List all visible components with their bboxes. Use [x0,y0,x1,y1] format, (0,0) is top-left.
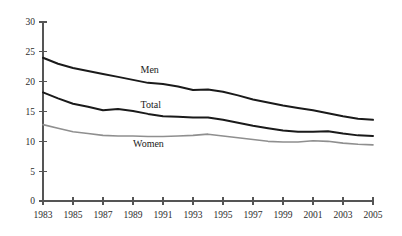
y-tick-label-5: 5 [30,167,35,177]
line-chart: 0510152025301983198519871989199119931995… [0,0,402,236]
x-tick-label-1993: 1993 [184,210,203,220]
x-tick-label-2003: 2003 [334,210,353,220]
y-tick-label-25: 25 [26,47,36,57]
chart-container: 0510152025301983198519871989199119931995… [0,0,402,236]
x-tick-label-1985: 1985 [64,210,83,220]
series-line-men [43,58,373,120]
x-tick-label-1983: 1983 [34,210,53,220]
series-label-total: Total [141,99,162,110]
x-tick-label-2005: 2005 [364,210,383,220]
series-line-total [43,92,373,136]
series-line-women [43,125,373,145]
x-tick-label-1995: 1995 [214,210,233,220]
y-tick-label-30: 30 [26,17,36,27]
x-tick-label-1997: 1997 [244,210,263,220]
x-tick-label-1987: 1987 [94,210,113,220]
series-label-men: Men [141,64,159,75]
x-tick-label-2001: 2001 [304,210,323,220]
y-tick-label-15: 15 [26,107,36,117]
x-tick-label-1991: 1991 [154,210,173,220]
x-tick-label-1989: 1989 [124,210,143,220]
y-tick-label-20: 20 [26,77,36,87]
y-tick-label-0: 0 [30,196,35,206]
series-label-women: Women [133,138,164,149]
y-tick-label-10: 10 [26,137,36,147]
x-tick-label-1999: 1999 [274,210,293,220]
